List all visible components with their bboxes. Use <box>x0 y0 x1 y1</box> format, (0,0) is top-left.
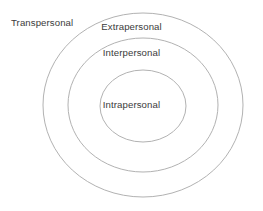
concentric-domains-diagram: Transpersonal Extrapersonal Interpersona… <box>0 0 263 211</box>
ring-label-interpersonal: Interpersonal <box>0 47 263 59</box>
ring-label-extrapersonal: Extrapersonal <box>0 21 263 33</box>
ring-label-intrapersonal: Intrapersonal <box>0 99 263 111</box>
